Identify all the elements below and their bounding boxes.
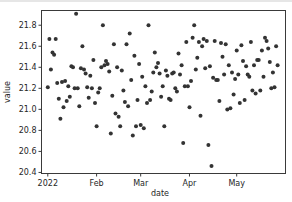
data-point: [77, 104, 81, 108]
y-tick-label: 20.6: [19, 147, 37, 156]
data-point: [68, 95, 72, 99]
data-point: [121, 88, 125, 92]
data-point: [158, 72, 162, 76]
data-point: [250, 88, 254, 92]
data-point: [180, 63, 184, 67]
data-point: [208, 64, 212, 68]
data-point: [195, 56, 199, 60]
data-point: [63, 79, 67, 83]
plot-area: [42, 11, 286, 174]
data-point: [192, 23, 196, 27]
data-point: [84, 72, 88, 76]
data-point: [241, 59, 245, 63]
data-point: [189, 79, 193, 83]
data-point: [254, 92, 258, 96]
data-point: [206, 143, 210, 147]
x-tick-label: Mar: [133, 179, 149, 188]
data-point: [164, 68, 168, 72]
data-point: [98, 86, 102, 90]
data-point: [200, 44, 204, 48]
data-point: [238, 101, 242, 105]
y-tick-label: 21.0: [19, 105, 37, 114]
data-point: [197, 40, 201, 44]
data-point: [203, 66, 207, 70]
data-point: [62, 105, 66, 109]
data-point: [181, 141, 185, 145]
data-point: [235, 49, 239, 53]
data-point: [74, 12, 78, 16]
data-point: [219, 41, 223, 45]
data-point: [128, 32, 132, 36]
data-point: [257, 58, 261, 62]
x-tick-label: 2022: [38, 179, 58, 188]
data-point: [54, 37, 58, 41]
data-point: [145, 101, 149, 105]
data-point: [132, 54, 136, 58]
x-tick-label: Feb: [90, 179, 104, 188]
data-point: [236, 73, 240, 77]
data-point: [153, 51, 157, 55]
data-point: [154, 65, 158, 69]
data-point: [140, 75, 144, 79]
data-point: [87, 96, 91, 100]
data-point: [114, 112, 118, 116]
data-point: [55, 81, 59, 85]
x-tick-label: May: [228, 179, 245, 188]
data-point: [276, 63, 280, 67]
data-point: [244, 64, 248, 68]
data-point: [213, 39, 217, 43]
data-point: [118, 124, 122, 128]
figure: 20.420.620.821.021.221.421.621.8 2022Feb…: [0, 0, 292, 202]
y-tick-label: 21.4: [19, 63, 37, 72]
data-point: [117, 115, 121, 119]
data-point: [186, 84, 190, 88]
data-point: [82, 67, 86, 71]
data-point: [172, 71, 176, 75]
data-point: [107, 70, 111, 74]
data-point: [80, 44, 84, 48]
data-point: [260, 49, 264, 53]
data-point: [91, 58, 95, 62]
data-point: [46, 85, 50, 89]
y-tick-label: 21.2: [19, 84, 37, 93]
data-point: [71, 65, 75, 69]
y-axis: 20.420.620.821.021.221.421.621.8: [19, 21, 42, 177]
data-point: [90, 86, 94, 90]
y-tick-label: 21.6: [19, 42, 37, 51]
y-tick-label: 21.8: [19, 21, 37, 30]
data-point: [134, 124, 138, 128]
data-point: [177, 52, 181, 56]
data-point: [265, 39, 269, 43]
data-point: [139, 123, 143, 127]
data-point: [47, 37, 51, 41]
data-point: [175, 90, 179, 94]
data-point: [150, 90, 154, 94]
data-point: [191, 36, 195, 40]
data-point: [131, 134, 135, 138]
x-axis-label: date: [151, 189, 169, 198]
data-point: [258, 88, 262, 92]
data-point: [221, 55, 225, 59]
data-point: [188, 105, 192, 109]
data-point: [58, 117, 62, 121]
x-tick-label: Apr: [183, 179, 198, 188]
y-tick-label: 20.8: [19, 126, 37, 135]
data-point: [101, 23, 105, 27]
y-axis-label: value: [3, 81, 12, 103]
data-point: [184, 40, 188, 44]
data-point: [142, 126, 146, 130]
data-point: [227, 63, 231, 67]
data-point: [136, 98, 140, 102]
data-point: [159, 95, 163, 99]
data-point: [49, 67, 53, 71]
data-point: [247, 75, 251, 79]
data-point: [217, 99, 221, 103]
data-point: [52, 53, 56, 57]
data-point: [151, 71, 155, 75]
data-point: [230, 71, 234, 75]
data-point: [110, 94, 114, 98]
data-point: [262, 75, 266, 79]
data-point: [65, 99, 69, 103]
data-point: [88, 74, 92, 78]
data-point: [109, 132, 113, 136]
